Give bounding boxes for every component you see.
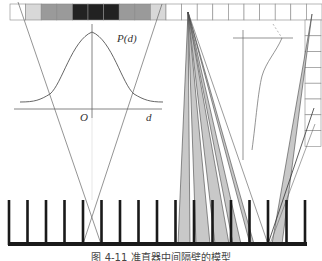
gaussian-plot xyxy=(14,24,163,200)
label-origin: O xyxy=(80,111,88,123)
penetration-fan xyxy=(178,12,315,244)
acceptance-lines xyxy=(18,2,162,244)
figure-caption: 图 4-11 准直器中间隔壁的模型 xyxy=(0,251,322,261)
inset-response-plot xyxy=(233,24,293,160)
label-d: d xyxy=(146,111,152,123)
diagram-canvas xyxy=(0,0,322,261)
collimator-septa-diagram: P(d) O d 图 4-11 准直器中间隔壁的模型 xyxy=(0,0,322,261)
label-pd: P(d) xyxy=(117,32,137,44)
collimator-septa xyxy=(8,200,307,246)
detector-strip xyxy=(10,4,322,20)
